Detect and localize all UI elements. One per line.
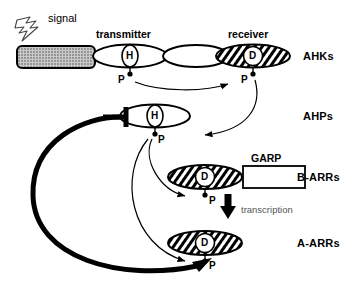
row-label-ahps: AHPs (303, 110, 333, 122)
signal-lightning-icon (15, 17, 38, 41)
transcription-label: transcription (241, 204, 293, 215)
ahp-h-letter: H (151, 110, 158, 121)
phospho-label-barr: P (209, 195, 216, 206)
receiver-label: receiver (228, 28, 268, 40)
transmitter-h-letter: H (126, 50, 133, 61)
transmitter-label: transmitter (96, 28, 151, 40)
membrane-box (17, 46, 95, 68)
receiver-d-letter: D (249, 50, 256, 61)
aarr-d-letter: D (201, 237, 208, 248)
ahp-phospho-dot (152, 131, 157, 136)
phospho-marks (127, 67, 255, 77)
arrow-transmitter-to-receiver (135, 82, 228, 90)
pathway-diagram: signal transmitter receiver H D H D D P … (0, 0, 354, 285)
signal-label: signal (48, 12, 77, 24)
garp-label: GARP (251, 152, 281, 164)
transcription-arrow (220, 194, 236, 219)
garp-box (243, 166, 305, 188)
phospho-label-ahp: P (158, 134, 165, 145)
phospho-label-aarr: P (209, 260, 216, 271)
row-label-ahks: AHKs (303, 50, 334, 62)
barr-phospho-dot (202, 192, 207, 197)
row-label-barrs: B-ARRs (297, 171, 340, 183)
phospho-label-transmitter: P (118, 74, 125, 85)
row-label-aarrs: A-ARRs (297, 237, 340, 249)
phospho-label-receiver: P (241, 74, 248, 85)
barr-d-letter: D (201, 171, 208, 182)
